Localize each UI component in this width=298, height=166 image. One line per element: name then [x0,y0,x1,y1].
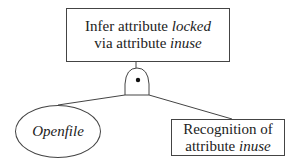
root-goal-node: Infer attribute locked via attribute inu… [66,8,230,62]
root-line1-text: Infer attribute [85,18,172,34]
openfile-label: Openfile [32,123,84,140]
gate-to-openfile-edge [58,95,125,105]
gate-to-recognition-edge [149,95,232,119]
recognition-line2-text: attribute [185,138,239,154]
root-line2-text: via attribute [94,35,170,51]
recognition-line-1: Recognition of [172,121,284,138]
recognition-node: Recognition of attribute inuse [171,119,285,156]
root-line1-italic: locked [172,18,211,34]
recognition-line-2: attribute inuse [172,138,284,155]
root-line2-italic: inuse [170,35,202,51]
root-line-1: Infer attribute locked [67,18,229,35]
gate-dot-icon [136,78,140,82]
openfile-node: Openfile [15,105,101,158]
root-line-2: via attribute inuse [67,35,229,52]
recognition-line2-italic: inuse [239,138,271,154]
